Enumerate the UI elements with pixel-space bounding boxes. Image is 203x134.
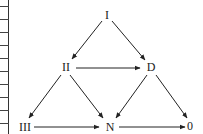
node-N: N xyxy=(106,121,115,133)
edge-I-D xyxy=(112,21,145,60)
node-0: 0 xyxy=(187,120,193,132)
node-I: I xyxy=(105,9,109,21)
node-II: II xyxy=(62,61,70,73)
edge-II-III xyxy=(29,75,61,118)
edge-D-0 xyxy=(156,75,187,118)
graph-edges xyxy=(0,0,203,134)
edge-I-II xyxy=(72,21,102,59)
edge-II-N xyxy=(70,75,103,118)
node-D: D xyxy=(147,61,156,73)
node-III: III xyxy=(19,121,31,133)
edge-D-N xyxy=(116,75,147,118)
